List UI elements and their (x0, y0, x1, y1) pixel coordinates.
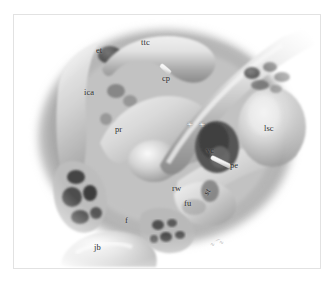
label-pe: pe (230, 161, 238, 170)
illustration-page: et ttc cp ica pr lsc vc pe st rw fu f jb… (0, 0, 336, 285)
label-fu: fu (184, 199, 191, 208)
label-lsc: lsc (264, 124, 274, 133)
label-et: et (96, 46, 102, 55)
anatomy-artwork (14, 15, 320, 268)
label-ttc: ttc (141, 38, 150, 47)
label-ica: ica (84, 88, 94, 97)
asterisk-marker: ✳ ✳ (187, 121, 207, 128)
label-cp: cp (162, 74, 170, 83)
label-jb: jb (94, 243, 101, 252)
label-rw: rw (172, 184, 181, 193)
label-f: f (125, 216, 128, 225)
label-pr: pr (115, 125, 122, 134)
illustration-canvas: et ttc cp ica pr lsc vc pe st rw fu f jb… (14, 15, 320, 268)
label-vc: vc (206, 146, 214, 155)
